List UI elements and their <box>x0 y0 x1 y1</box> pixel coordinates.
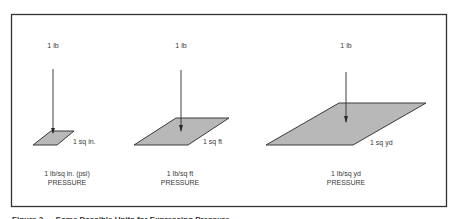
quantity-label: PRESSURE <box>327 179 366 186</box>
panel-square-inch: 1 lb 1 sq in. 1 lb/sq in. (psi) PRESSURE <box>33 42 96 186</box>
panel-square-foot: 1 lb 1 sq ft 1 lb/sq ft PRESSURE <box>134 42 229 186</box>
quantity-label: PRESSURE <box>161 179 200 186</box>
area-label: 1 sq yd <box>370 139 393 147</box>
force-label: 1 lb <box>340 42 351 49</box>
area-label: 1 sq in. <box>73 138 96 146</box>
unit-label: 1 lb/sq in. (psi) <box>44 170 90 178</box>
area-square-inch <box>33 131 74 145</box>
area-label: 1 sq ft <box>203 138 222 146</box>
quantity-label: PRESSURE <box>48 179 87 186</box>
unit-label: 1 lb/sq ft <box>167 170 194 178</box>
figure-caption: Figure 2 — Some Possible Units for Expre… <box>12 215 230 219</box>
unit-label: 1 lb/sq yd <box>331 170 361 178</box>
force-label: 1 lb <box>47 42 58 49</box>
force-label: 1 lb <box>175 42 186 49</box>
pressure-units-diagram: 1 lb 1 sq in. 1 lb/sq in. (psi) PRESSURE… <box>0 0 456 219</box>
panel-square-yard: 1 lb 1 sq yd 1 lb/sq yd PRESSURE <box>266 42 426 186</box>
